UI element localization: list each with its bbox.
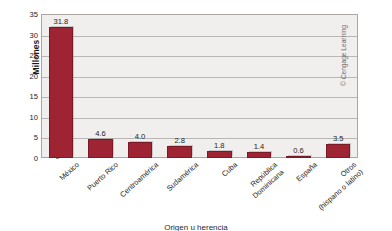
bar[interactable]	[286, 156, 311, 158]
x-axis-label-2: Centroamérica	[118, 160, 160, 199]
x-axis-label-line1: Centroamérica	[118, 160, 160, 199]
bar[interactable]	[88, 139, 113, 158]
copyright-credit: © Cengage Learning	[340, 8, 347, 104]
x-axis-category-labels: MéxicoPuerto RicoCentroaméricaSudamérica…	[41, 160, 358, 231]
bar[interactable]	[167, 146, 192, 158]
x-axis-label-line1: México	[57, 160, 80, 182]
bar-value-label: 4.0	[135, 132, 146, 141]
y-tick-label-30: 30	[18, 30, 38, 39]
bar-group[interactable]: 2.8	[167, 14, 192, 158]
bar[interactable]	[247, 152, 272, 158]
bar-group[interactable]: 1.4	[247, 14, 272, 158]
x-axis-label-6: España	[294, 160, 319, 184]
x-axis-label-line1: Puerto Rico	[86, 160, 121, 193]
bar[interactable]	[326, 144, 351, 158]
x-axis-label-line1: Cuba	[220, 160, 239, 179]
y-tick-label-10: 10	[18, 112, 38, 121]
y-tick-label-5: 5	[18, 133, 38, 142]
y-tick-label-20: 20	[18, 71, 38, 80]
x-axis-label-0: México	[57, 160, 81, 183]
bar-value-label: 4.6	[95, 129, 106, 138]
y-tick-label-25: 25	[18, 51, 38, 60]
x-axis-label-4: Cuba	[220, 160, 239, 179]
bar-value-label: 31.8	[53, 17, 68, 26]
bar[interactable]	[49, 27, 74, 158]
bar-chart-figure: Millones 05101520253035 31.84.64.02.81.8…	[0, 0, 392, 231]
bars-layer: 31.84.64.02.81.81.40.63.5	[41, 14, 358, 158]
bar-group[interactable]: 1.8	[207, 14, 232, 158]
bar-group[interactable]: 31.8	[49, 14, 74, 158]
bar-value-label: 2.8	[174, 136, 185, 145]
bar-value-label: 1.4	[254, 142, 265, 151]
x-axis-title: Origen u herencia	[0, 223, 392, 231]
y-tick-label-0: 0	[18, 154, 38, 163]
y-tick-label-15: 15	[18, 92, 38, 101]
bar-value-label: 3.5	[333, 134, 344, 143]
x-axis-label-line1: España	[294, 160, 319, 183]
bar-group[interactable]: 3.5	[326, 14, 351, 158]
bar-group[interactable]: 4.0	[128, 14, 153, 158]
y-axis-tick-labels: 05101520253035	[18, 14, 38, 158]
bar[interactable]	[207, 151, 232, 158]
x-axis-label-3: Sudamérica	[164, 160, 200, 193]
bar-group[interactable]: 4.6	[88, 14, 113, 158]
y-tick-mark	[56, 158, 59, 159]
y-tick-label-35: 35	[18, 10, 38, 19]
bar-group[interactable]: 0.6	[286, 14, 311, 158]
bar-value-label: 1.8	[214, 141, 225, 150]
bar-value-label: 0.6	[293, 146, 304, 155]
x-axis-label-1: Puerto Rico	[86, 160, 121, 193]
bar[interactable]	[128, 142, 153, 158]
x-axis-label-5: RepúblicaDominicana	[244, 160, 286, 200]
x-axis-label-line1: Sudamérica	[164, 160, 199, 193]
